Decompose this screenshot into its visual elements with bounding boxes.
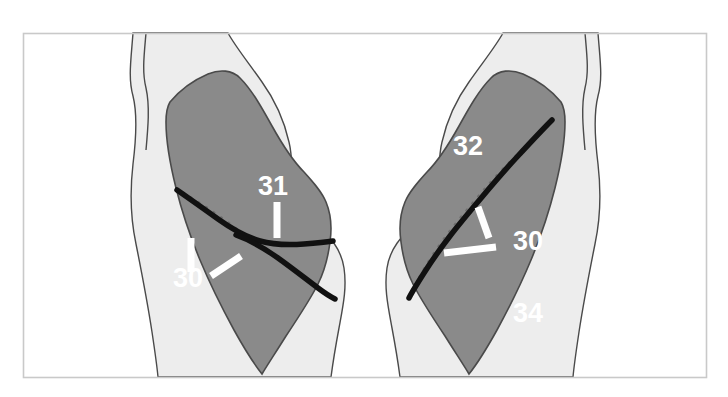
label-34: 34 [513, 298, 543, 328]
label-30-left: 30 [173, 263, 203, 293]
label-31: 31 [258, 171, 288, 201]
anatomy-figure: 31 30 32 30 34 [0, 0, 728, 397]
label-32: 32 [453, 131, 483, 161]
lung-anatomy-illustration: 31 30 32 30 34 [0, 0, 728, 397]
page-background [0, 0, 728, 397]
label-30-right: 30 [513, 226, 543, 256]
